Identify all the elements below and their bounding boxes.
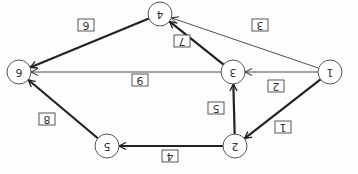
node-6: 6 bbox=[7, 60, 31, 84]
edge-2-5: 4 bbox=[119, 143, 223, 163]
svg-text:4: 4 bbox=[167, 150, 174, 163]
edge-3-4: 7 bbox=[169, 21, 223, 64]
svg-text:2: 2 bbox=[232, 140, 239, 153]
node-2: 2 bbox=[223, 134, 247, 158]
edge-weight-label: 5 bbox=[208, 102, 224, 115]
graph-canvas: 123547968123456 bbox=[0, 0, 358, 174]
svg-text:1: 1 bbox=[280, 121, 287, 134]
svg-text:6: 6 bbox=[16, 66, 23, 79]
edge-4-6: 6 bbox=[30, 19, 149, 69]
node-4: 4 bbox=[148, 2, 172, 26]
svg-text:3: 3 bbox=[257, 19, 264, 32]
edge-weight-label: 6 bbox=[78, 19, 94, 32]
node-3: 3 bbox=[221, 60, 245, 84]
svg-text:3: 3 bbox=[230, 66, 237, 79]
edge-weight-label: 8 bbox=[39, 113, 55, 126]
svg-text:7: 7 bbox=[179, 35, 186, 48]
svg-text:8: 8 bbox=[44, 113, 51, 126]
edge-weight-label: 2 bbox=[268, 80, 284, 93]
svg-text:5: 5 bbox=[213, 102, 220, 115]
svg-text:1: 1 bbox=[327, 66, 334, 79]
svg-text:6: 6 bbox=[83, 19, 90, 32]
edge-1-4: 3 bbox=[171, 17, 318, 68]
edge-2-3: 5 bbox=[208, 84, 237, 134]
edge-weight-label: 9 bbox=[132, 74, 148, 87]
edge-5-6: 8 bbox=[28, 80, 98, 139]
edge-3-6: 9 bbox=[31, 69, 221, 87]
graph-diagram: 123547968123456 bbox=[0, 0, 358, 174]
node-1: 1 bbox=[318, 60, 342, 84]
edge-weight-label: 1 bbox=[275, 121, 291, 134]
edge-weight-label: 4 bbox=[162, 150, 178, 163]
svg-text:2: 2 bbox=[273, 80, 280, 93]
svg-text:9: 9 bbox=[137, 74, 144, 87]
edge-weight-label: 3 bbox=[252, 19, 268, 32]
edge-weight-label: 7 bbox=[174, 35, 190, 48]
svg-text:4: 4 bbox=[157, 8, 164, 21]
node-5: 5 bbox=[95, 134, 119, 158]
svg-text:5: 5 bbox=[104, 140, 111, 153]
